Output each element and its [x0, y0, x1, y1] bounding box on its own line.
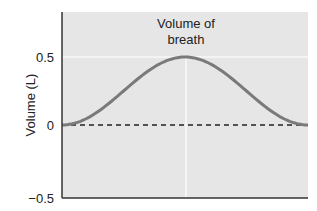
y-tick-label: 0.5 [36, 50, 54, 65]
y-tick-label: 0 [47, 118, 54, 133]
y-axis-label: Volume (L) [23, 74, 38, 137]
y-tick-label: −0.5 [28, 191, 54, 206]
volume-chart: 0.5 0 −0.5 Volume (L) Volume of breath [0, 0, 317, 211]
curve-annotation-line1: Volume of [157, 16, 215, 31]
curve-annotation-line2: breath [168, 32, 205, 47]
